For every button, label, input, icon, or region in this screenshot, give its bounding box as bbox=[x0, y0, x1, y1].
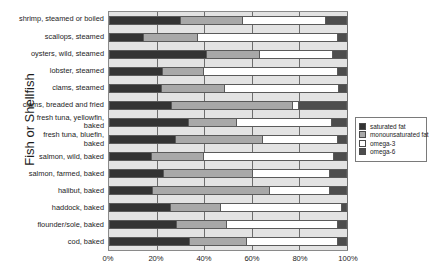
bar-segment-saturated-fat bbox=[110, 34, 143, 41]
bar-segment-omega-3 bbox=[197, 34, 336, 41]
bar-segment-omega-6 bbox=[329, 170, 346, 177]
bar-row bbox=[109, 12, 347, 29]
bar-segment-omega-6 bbox=[333, 153, 346, 160]
stacked-bar bbox=[109, 152, 347, 161]
category-label: oysters, wild, steamed bbox=[18, 45, 106, 62]
bar-segment-omega-3 bbox=[246, 238, 337, 245]
bar-segment-monounsaturated-fat bbox=[163, 170, 252, 177]
stacked-bar bbox=[109, 84, 347, 93]
x-tick-label: 20% bbox=[148, 254, 163, 263]
legend-item: monounsaturated fat bbox=[359, 131, 423, 138]
bar-segment-saturated-fat bbox=[110, 136, 175, 143]
bar-segment-omega-6 bbox=[341, 204, 346, 211]
legend-label: omega-3 bbox=[370, 140, 395, 147]
bar-row bbox=[109, 165, 347, 182]
category-label: fresh tuna, bluefin, baked bbox=[18, 131, 106, 148]
category-label: flounder/sole, baked bbox=[18, 217, 106, 234]
x-tick-label: 80% bbox=[292, 254, 307, 263]
stacked-bar bbox=[109, 186, 347, 195]
bar-segment-monounsaturated-fat bbox=[152, 187, 269, 194]
bar-segment-omega-6 bbox=[337, 238, 346, 245]
legend-label: omega-6 bbox=[370, 148, 395, 155]
bar-row bbox=[109, 29, 347, 46]
stacked-bar bbox=[109, 33, 347, 42]
bar-segment-omega-3 bbox=[262, 136, 336, 143]
y-axis-category-labels: shrimp, steamed or boiledscallops, steam… bbox=[18, 11, 106, 251]
bar-row bbox=[109, 97, 347, 114]
bar-segment-omega-3 bbox=[203, 68, 336, 75]
bar-row bbox=[109, 63, 347, 80]
bar-segment-omega-6 bbox=[338, 85, 346, 92]
bar-segment-omega-3 bbox=[236, 119, 330, 126]
stacked-bar bbox=[109, 220, 347, 229]
bar-segment-omega-6 bbox=[332, 51, 346, 58]
legend-swatch-icon bbox=[359, 148, 366, 155]
category-label: cod, baked bbox=[18, 234, 106, 251]
bar-row bbox=[109, 199, 347, 216]
bar-row bbox=[109, 148, 347, 165]
bar-segment-saturated-fat bbox=[110, 170, 163, 177]
bar-row bbox=[109, 80, 347, 97]
bar-segment-omega-6 bbox=[329, 187, 346, 194]
x-tick-label: 0% bbox=[103, 254, 114, 263]
legend-label: saturated fat bbox=[370, 123, 406, 130]
bar-segment-omega-6 bbox=[325, 17, 346, 24]
stacked-bar bbox=[109, 101, 347, 110]
stacked-bar bbox=[109, 67, 347, 76]
stacked-bar-chart: Fish or Shellfish shrimp, steamed or boi… bbox=[0, 0, 431, 280]
legend-item: omega-3 bbox=[359, 140, 423, 147]
category-label: clams, breaded and fried bbox=[18, 97, 106, 114]
stacked-bar bbox=[109, 237, 347, 246]
bar-segment-omega-3 bbox=[269, 187, 329, 194]
legend-label: monounsaturated fat bbox=[370, 131, 429, 138]
bar-segment-monounsaturated-fat bbox=[206, 51, 259, 58]
category-label: salmon, wild, baked bbox=[18, 148, 106, 165]
bar-segment-saturated-fat bbox=[110, 68, 162, 75]
bar-segment-omega-3 bbox=[203, 153, 333, 160]
legend-item: omega-6 bbox=[359, 148, 423, 155]
bar-segment-saturated-fat bbox=[110, 119, 188, 126]
bar-row bbox=[109, 46, 347, 63]
stacked-bar bbox=[109, 169, 347, 178]
x-tick-label: 60% bbox=[244, 254, 259, 263]
bar-segment-monounsaturated-fat bbox=[162, 68, 203, 75]
stacked-bar bbox=[109, 118, 347, 127]
bar-segment-omega-6 bbox=[337, 68, 346, 75]
category-label: halibut, baked bbox=[18, 182, 106, 199]
stacked-bar bbox=[109, 203, 347, 212]
legend-swatch-icon bbox=[359, 131, 366, 138]
bar-row bbox=[109, 182, 347, 199]
bar-segment-saturated-fat bbox=[110, 187, 152, 194]
bar-segment-saturated-fat bbox=[110, 153, 151, 160]
plot-area bbox=[108, 11, 348, 251]
category-label: shrimp, steamed or boiled bbox=[18, 11, 106, 28]
bar-row bbox=[109, 216, 347, 233]
bar-segment-omega-3 bbox=[226, 221, 337, 228]
bar-segment-monounsaturated-fat bbox=[175, 136, 262, 143]
bars-layer bbox=[109, 12, 347, 250]
stacked-bar bbox=[109, 16, 347, 25]
bar-segment-monounsaturated-fat bbox=[176, 221, 226, 228]
bar-segment-omega-6 bbox=[331, 119, 346, 126]
bar-segment-omega-3 bbox=[220, 204, 342, 211]
category-label: fresh tuna, yellowfin, baked bbox=[18, 114, 106, 131]
bar-segment-monounsaturated-fat bbox=[189, 238, 246, 245]
bar-segment-monounsaturated-fat bbox=[151, 153, 203, 160]
category-label: haddock, baked bbox=[18, 200, 106, 217]
category-label: clams, steamed bbox=[18, 80, 106, 97]
bar-segment-omega-6 bbox=[337, 34, 346, 41]
legend-item: saturated fat bbox=[359, 123, 423, 130]
category-label: lobster, steamed bbox=[18, 62, 106, 79]
stacked-bar bbox=[109, 135, 347, 144]
bar-segment-omega-6 bbox=[298, 102, 346, 109]
category-label: salmon, farmed, baked bbox=[18, 165, 106, 182]
x-tick-label: 100% bbox=[338, 254, 357, 263]
bar-segment-saturated-fat bbox=[110, 51, 206, 58]
legend-swatch-icon bbox=[359, 140, 366, 147]
chart-legend: saturated fatmonounsaturated fatomega-3o… bbox=[355, 117, 427, 162]
bar-segment-saturated-fat bbox=[110, 85, 161, 92]
x-axis-tick-labels: 0%20%40%60%80%100% bbox=[108, 252, 348, 266]
bar-segment-omega-6 bbox=[337, 136, 346, 143]
bar-segment-omega-3 bbox=[252, 170, 330, 177]
bar-segment-monounsaturated-fat bbox=[180, 17, 243, 24]
